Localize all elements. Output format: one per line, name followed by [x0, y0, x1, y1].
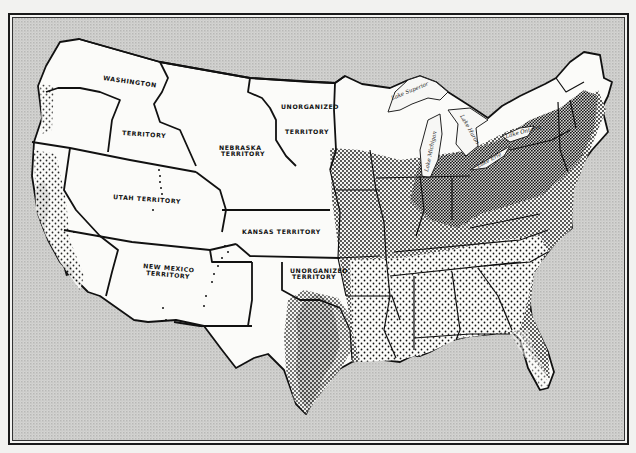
label-unorganized-south-2: TERRITORY	[292, 273, 336, 280]
label-nebraska-territory-2: TERRITORY	[221, 150, 265, 157]
label-kansas-territory: KANSAS TERRITORY	[242, 228, 321, 235]
us-population-map: WASHINGTON TERRITORY NEBRASKA TERRITORY …	[0, 0, 636, 453]
label-unorganized-north-2: TERRITORY	[285, 128, 329, 135]
map-page: WASHINGTON TERRITORY NEBRASKA TERRITORY …	[0, 0, 636, 453]
label-unorganized-north: UNORGANIZED	[281, 103, 339, 110]
